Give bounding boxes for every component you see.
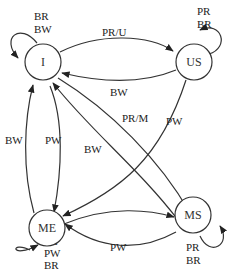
loop-label-ME-pw: PW	[44, 247, 61, 259]
edge-label-bw-me-i: BW	[5, 134, 23, 146]
loop-label-MS-pr: PR	[186, 241, 200, 253]
edge-label-pw-us-me: PW	[166, 115, 183, 127]
edge-label-pr-m: PR/M	[122, 112, 149, 124]
edge-label-pw-ms-me: PW	[110, 241, 127, 253]
edge-US-ME: PW	[63, 80, 186, 216]
edge-I-ME: PW	[45, 86, 62, 212]
edge-MS-ME: PW	[65, 224, 176, 253]
edge-US-I: BW	[62, 70, 176, 98]
edge-MS-I: BW	[53, 83, 178, 220]
node-label-US: US	[186, 55, 201, 69]
edge-label-pw-i-me: PW	[45, 134, 62, 146]
loop-label-I-br: BR	[34, 10, 49, 22]
node-label-MS: MS	[184, 208, 201, 222]
loop-label-US-br: BR	[197, 18, 212, 30]
node-MS: MS	[175, 197, 211, 233]
edge-label-bw-ms-i: BW	[84, 143, 102, 155]
loop-label-MS-br: BR	[186, 254, 201, 266]
edge-I-US: PR/U	[60, 26, 173, 52]
node-ME: ME	[29, 210, 65, 246]
loop-label-I-bw: BW	[34, 23, 52, 35]
edge-ME-I: BW	[5, 85, 34, 213]
edge-label-pr-u: PR/U	[102, 26, 127, 38]
edge-ME-MS	[64, 211, 174, 224]
node-US: US	[176, 44, 212, 80]
edge-I-MS: PR/M	[58, 78, 190, 213]
node-label-I: I	[41, 55, 45, 69]
loop-label-ME-br: BR	[44, 259, 59, 271]
node-I: I	[25, 44, 61, 80]
node-label-ME: ME	[38, 221, 56, 235]
state-diagram: BR BW PR BR PR PW BR PR BR PR/U BW PR/M …	[0, 0, 230, 275]
edge-label-bw-us-i: BW	[110, 86, 128, 98]
loop-label-US-pr: PR	[197, 5, 211, 17]
